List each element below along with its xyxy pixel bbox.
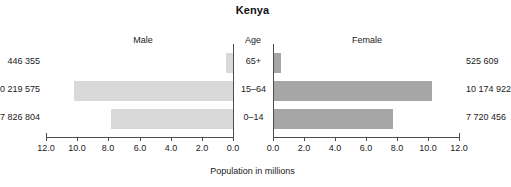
bar-row-male-15-64: 10 219 575 [46,81,233,101]
right-tick-label-2: 4.0 [318,143,352,153]
right-tick-2 [335,137,336,141]
x-axis-title: Population in millions [0,166,505,176]
male-column-header: Male [108,35,178,45]
bar-value-female-65plus: 525 609 [466,56,499,66]
right-tick-4 [397,137,398,141]
right-tick-label-4: 8.0 [380,143,414,153]
bar-male-15-64 [74,81,233,101]
right-tick-0 [273,137,274,141]
left-tick-label-1: 10.0 [60,143,94,153]
bar-row-male-65plus: 446 355 [46,53,233,73]
bar-row-female-65plus: 525 609 [273,53,460,73]
right-tick-label-1: 2.0 [287,143,321,153]
bar-female-0-14 [273,109,393,129]
left-tick-label-6: 0.0 [216,143,250,153]
right-tick-label-5: 10.0 [411,143,445,153]
age-label-15-64: 15–64 [234,84,273,94]
female-bars-panel: 525 609 10 174 922 7 720 456 [273,50,460,134]
left-tick-6 [233,137,234,141]
left-tick-label-4: 4.0 [154,143,188,153]
chart-title: Kenya [0,4,505,16]
right-tick-5 [428,137,429,141]
female-column-header: Female [332,35,402,45]
left-tick-4 [171,137,172,141]
right-tick-label-0: 0.0 [256,143,290,153]
bar-row-female-0-14: 7 720 456 [273,109,460,129]
left-tick-1 [77,137,78,141]
age-label-65plus: 65+ [234,56,273,66]
bar-value-male-15-64: 10 219 575 [0,84,40,94]
left-tick-label-2: 8.0 [91,143,125,153]
bar-female-65plus [273,53,281,73]
bar-value-female-0-14: 7 720 456 [466,112,506,122]
age-label-0-14: 0–14 [234,112,273,122]
bar-male-65plus [226,53,233,73]
left-tick-3 [140,137,141,141]
bar-male-0-14 [111,109,233,129]
bar-value-male-0-14: 7 826 804 [0,112,40,122]
male-bars-panel: 446 355 10 219 575 7 826 804 [46,50,233,134]
left-tick-5 [202,137,203,141]
bar-value-female-15-64: 10 174 922 [466,84,511,94]
left-tick-0 [46,137,47,141]
bar-row-female-15-64: 10 174 922 [273,81,460,101]
left-tick-label-3: 6.0 [123,143,157,153]
bar-female-15-64 [273,81,432,101]
left-tick-label-0: 12.0 [29,143,63,153]
right-tick-6 [459,137,460,141]
right-tick-label-6: 12.0 [442,143,476,153]
right-axis-spine [273,44,274,136]
bar-row-male-0-14: 7 826 804 [46,109,233,129]
left-tick-2 [108,137,109,141]
left-tick-label-5: 2.0 [185,143,219,153]
age-column-header: Age [228,35,278,45]
bar-value-male-65plus: 446 355 [7,56,40,66]
right-tick-1 [304,137,305,141]
right-tick-label-3: 6.0 [349,143,383,153]
right-tick-3 [366,137,367,141]
